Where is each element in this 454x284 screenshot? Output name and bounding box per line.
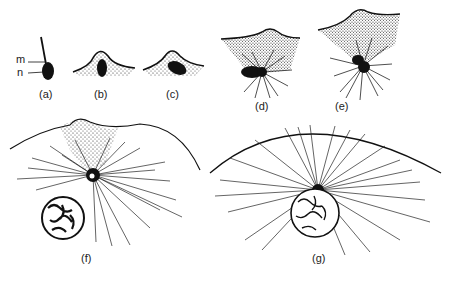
panel-f-aster xyxy=(10,119,200,246)
panel-label-g: (g) xyxy=(312,252,325,264)
diagram-canvas xyxy=(0,0,454,284)
panel-label-b: (b) xyxy=(94,88,107,100)
panel-label-d: (d) xyxy=(255,100,268,112)
panel-a-sperm xyxy=(28,37,54,80)
panel-c-cone xyxy=(143,51,204,78)
panel-label-a: (a) xyxy=(39,88,52,100)
panel-e-aster xyxy=(318,10,400,100)
fertilization-diagram: m n (a) (b) (c) (d) (e) (f) (g) xyxy=(0,0,454,284)
panel-label-e: (e) xyxy=(335,100,348,112)
panel-g-aster xyxy=(210,125,441,255)
panel-b-cone xyxy=(73,51,135,77)
panel-d-aster xyxy=(221,29,300,98)
annotation-m: m xyxy=(16,53,25,65)
panel-label-f: (f) xyxy=(81,252,91,264)
annotation-n: n xyxy=(17,66,23,78)
panel-label-c: (c) xyxy=(166,88,179,100)
